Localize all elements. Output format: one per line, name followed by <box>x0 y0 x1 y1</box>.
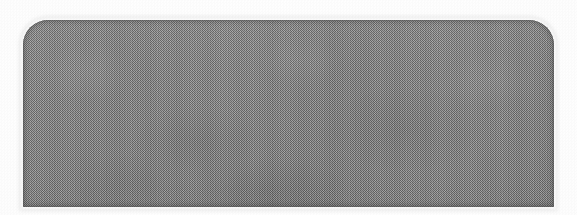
panel-label <box>23 20 554 207</box>
gray-panel <box>23 20 554 207</box>
scanned-page <box>0 0 577 215</box>
